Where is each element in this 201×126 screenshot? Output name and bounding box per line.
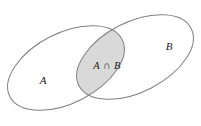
venn-diagram-figure: A B A ∩ B: [0, 0, 201, 126]
venn-diagram-canvas: A B A ∩ B: [0, 0, 201, 126]
set-b-label: B: [166, 40, 173, 52]
intersection-label: A ∩ B: [92, 60, 121, 71]
set-a-label: A: [39, 74, 47, 86]
